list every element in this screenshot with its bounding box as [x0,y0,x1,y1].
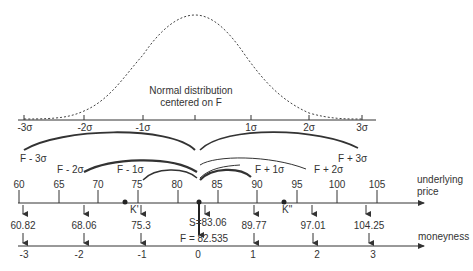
arc-f-minus-3 [24,132,195,150]
arc-f-plus-1 [200,170,251,180]
svg-text:-1: -1 [138,249,147,260]
moneyness-diagram: Normal distribution centered on F -3σ -2… [0,0,473,271]
svg-text:3: 3 [370,249,376,260]
svg-text:90: 90 [251,179,263,190]
svg-text:85: 85 [211,179,223,190]
svg-text:97.01: 97.01 [300,220,325,231]
sigma-ticks [24,115,362,120]
svg-text:80: 80 [171,179,183,190]
price-axis-title: underlying [417,174,463,185]
svg-text:-2: -2 [75,249,84,260]
svg-text:F + 3σ: F + 3σ [338,153,368,164]
svg-text:68.06: 68.06 [71,220,96,231]
svg-text:65: 65 [53,179,65,190]
svg-text:-3: -3 [20,249,29,260]
strike-low-label: K' [130,204,139,215]
price-axis-title-2: price [417,186,439,197]
strike-high-label: K" [282,204,293,215]
price-tick-labels: 60 65 70 75 80 85 90 95 100 105 [13,179,385,190]
svg-text:105: 105 [369,179,386,190]
svg-text:2σ: 2σ [303,122,316,133]
svg-text:89.77: 89.77 [241,220,266,231]
arc-labels: F - 3σ F - 2σ F - 1σ F + 1σ F + 2σ F + 3… [20,153,368,175]
svg-text:1σ: 1σ [245,122,258,133]
svg-text:75: 75 [131,179,143,190]
distribution-label: Normal distribution [149,85,232,96]
svg-text:-1σ: -1σ [135,122,151,133]
price-down-arrows [23,205,366,214]
arc-f-plus-3 [200,132,358,150]
sigma-tick-labels: -3σ -2σ -1σ 1σ 2σ 3σ [17,122,368,133]
svg-text:95: 95 [291,179,303,190]
svg-text:0: 0 [195,249,201,260]
svg-text:-3σ: -3σ [17,122,33,133]
svg-text:60: 60 [13,179,25,190]
svg-text:F - 3σ: F - 3σ [20,153,48,164]
spot-label: S=83.06 [189,217,227,228]
svg-text:1: 1 [250,249,256,260]
arc-f-minus-1 [143,170,197,180]
distribution-label-2: centered on F [160,97,222,108]
svg-text:F + 2σ: F + 2σ [314,164,344,175]
strike-low-dot [123,200,128,205]
svg-text:75.3: 75.3 [131,220,151,231]
svg-text:3σ: 3σ [356,122,369,133]
arc-f-plus-2 [200,158,306,169]
forward-label: F = 82.535 [180,233,229,244]
svg-text:100: 100 [329,179,346,190]
svg-text:-2σ: -2σ [77,122,93,133]
svg-text:104.25: 104.25 [354,220,385,231]
moneyness-tick-labels: -3 -2 -1 0 1 2 3 [20,249,377,260]
svg-text:F - 2σ: F - 2σ [57,164,85,175]
moneyness-axis-title: moneyness [418,231,469,242]
svg-text:2: 2 [314,249,320,260]
svg-text:70: 70 [92,179,104,190]
svg-text:F - 1σ: F - 1σ [117,164,145,175]
svg-text:F + 1σ: F + 1σ [255,164,285,175]
svg-text:60.82: 60.82 [10,220,35,231]
